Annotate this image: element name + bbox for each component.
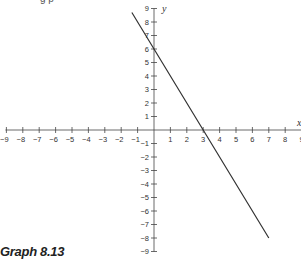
y-tick-label: −7 (140, 220, 149, 229)
axes (5, 9, 301, 252)
y-tick-label: −2 (140, 153, 149, 162)
graph-caption: Graph 8.13 (0, 244, 64, 259)
y-tick-label: −4 (140, 180, 149, 189)
y-tick-label: −6 (140, 207, 149, 216)
x-axis-label: x (296, 117, 301, 128)
x-tick-label: 8 (283, 135, 287, 144)
y-tick-label: 5 (145, 58, 149, 67)
x-tick-label: −9 (0, 135, 9, 144)
x-tick-label: 4 (218, 135, 222, 144)
x-tick-label: 7 (267, 135, 271, 144)
line-series (132, 13, 269, 238)
x-tick-label: 9 (300, 135, 301, 144)
x-tick-label: 3 (201, 135, 205, 144)
x-tick-label: −6 (49, 135, 58, 144)
y-tick-label: 8 (145, 18, 149, 27)
x-tick-label: −7 (33, 135, 42, 144)
x-tick-label: −8 (17, 135, 26, 144)
y-tick-label: −5 (140, 193, 149, 202)
y-tick-label: −1 (140, 139, 149, 148)
x-tick-label: −1 (131, 135, 140, 144)
y-tick-label: 4 (145, 72, 149, 81)
plotted-line (132, 13, 269, 238)
y-tick-label: 6 (145, 45, 149, 54)
y-tick-label: −9 (140, 247, 149, 256)
y-tick-label: 3 (145, 85, 149, 94)
x-tick-label: 5 (234, 135, 238, 144)
x-tick-label: −5 (66, 135, 75, 144)
y-axis-label: y (161, 3, 167, 14)
coordinate-plane: −9−8−7−6−5−4−3−2−1123456789987654321−1−2… (0, 0, 301, 262)
x-tick-label: −4 (82, 135, 91, 144)
x-tick-label: 2 (185, 135, 189, 144)
y-tick-label: 1 (145, 112, 149, 121)
y-tick-label: 9 (145, 4, 149, 13)
y-tick-label: 2 (145, 99, 149, 108)
tick-labels: −9−8−7−6−5−4−3−2−1123456789987654321−1−2… (0, 3, 301, 257)
x-tick-label: −3 (99, 135, 108, 144)
y-tick-label: −3 (140, 166, 149, 175)
x-tick-label: 1 (168, 135, 172, 144)
x-tick-label: −2 (115, 135, 124, 144)
x-tick-label: 6 (250, 135, 254, 144)
y-tick-label: −8 (140, 234, 149, 243)
